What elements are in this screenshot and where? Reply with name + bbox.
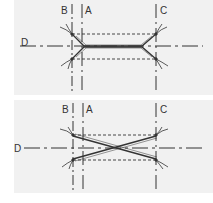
strand-cross-2b <box>75 138 157 161</box>
label-d-top: D <box>21 37 28 48</box>
label-b-bottom: B <box>62 104 69 115</box>
flare-bottom-right <box>156 59 168 69</box>
diagram-canvas: B A C D B A C D <box>0 0 213 203</box>
flare-top-right <box>156 127 168 135</box>
strand-cross-1b <box>75 134 157 157</box>
strand-upper <box>72 34 156 46</box>
label-a-bottom: A <box>86 104 93 115</box>
strand-lower <box>72 47 156 59</box>
label-b-top: B <box>61 5 68 16</box>
flare-top-left <box>60 24 72 34</box>
flare-bottom-right <box>156 160 168 169</box>
flare-top-left <box>60 127 73 135</box>
label-c-bottom: C <box>160 104 167 115</box>
label-d-bottom: D <box>14 143 21 154</box>
flare-top-right <box>156 24 167 34</box>
label-c-top: C <box>160 5 167 16</box>
flare-bottom-left <box>62 160 73 169</box>
label-a-top: A <box>85 5 92 16</box>
top-diagram <box>20 4 203 94</box>
bottom-diagram <box>24 103 205 193</box>
flare-bottom-left <box>61 59 72 69</box>
